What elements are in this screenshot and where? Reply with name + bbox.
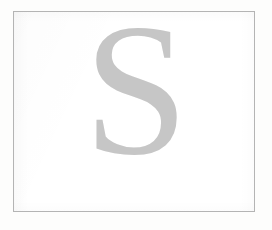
letter-s-glyph: S: [84, 12, 189, 194]
plate-content-area: S: [14, 12, 254, 211]
glyph-container: S: [14, 12, 254, 211]
image-border-frame: S: [13, 11, 255, 212]
scanned-page: S: [0, 0, 272, 230]
letter-glyph-svg: S: [14, 12, 254, 211]
